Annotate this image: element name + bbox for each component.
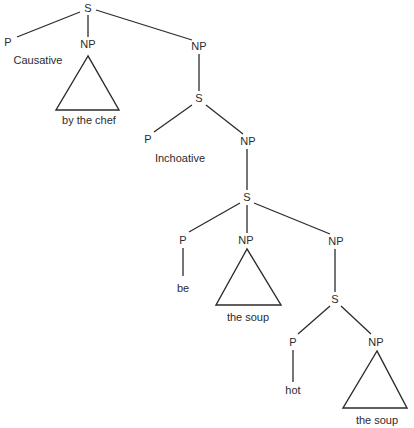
node-p3: P (179, 234, 186, 246)
edge-s2-p2 (154, 105, 192, 132)
tree-edges (17, 10, 371, 382)
node-s4: S (331, 293, 338, 305)
edge-s3-np5 (254, 203, 330, 234)
node-s2: S (195, 92, 202, 104)
node-np3: NP (240, 135, 255, 147)
terminal-be: be (177, 282, 189, 294)
node-np2: NP (191, 40, 206, 52)
node-p1: P (4, 36, 11, 48)
edge-s2-np3 (206, 105, 243, 134)
node-np1: NP (80, 38, 95, 50)
node-p4: P (289, 336, 296, 348)
terminal-causative: Causative (14, 54, 63, 66)
triangle-tri1 (56, 56, 119, 110)
terminal-the-soup-2: the soup (356, 414, 398, 426)
node-s3: S (243, 191, 250, 203)
edge-s1-np2 (96, 10, 192, 40)
terminal-hot: hot (285, 384, 300, 396)
edge-s1-p1 (17, 12, 80, 37)
node-p2: P (144, 133, 151, 145)
terminal-inchoative: Inchoative (155, 152, 205, 164)
node-s1: S (84, 2, 91, 14)
node-np5: NP (328, 235, 343, 247)
edge-s3-p3 (189, 203, 240, 232)
node-np4: NP (238, 234, 253, 246)
tree-triangles (56, 56, 407, 408)
triangle-tri2 (216, 249, 281, 305)
node-np6: NP (368, 336, 383, 348)
terminal-the-soup-1: the soup (227, 311, 269, 323)
terminal-by-the-chef: by the chef (62, 114, 117, 126)
syntax-tree-diagram: SPNPNPSPNPSPNPNPSPNP Causativeby the che… (0, 0, 414, 428)
triangle-tri3 (343, 351, 407, 408)
edge-s4-np6 (341, 306, 371, 334)
edge-s4-p4 (298, 306, 330, 334)
